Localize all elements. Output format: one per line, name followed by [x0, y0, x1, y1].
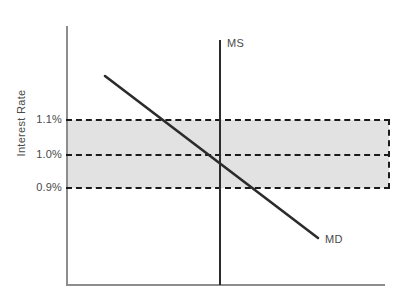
- money-demand-curve-layer: [0, 0, 402, 303]
- money-demand-curve: [105, 76, 318, 238]
- money-supply-label: MS: [227, 37, 244, 49]
- money-market-chart: Interest Rate 1.1% 1.0% 0.9% MS MD: [0, 0, 402, 303]
- money-demand-label: MD: [325, 233, 343, 245]
